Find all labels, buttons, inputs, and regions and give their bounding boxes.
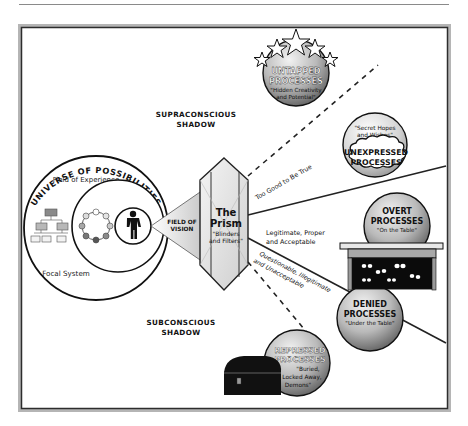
ray-label-legitimate-2: and Acceptable (266, 238, 316, 246)
supraconscious-shadow-label: SUPRACONSCIOUS SHADOW (156, 110, 237, 129)
prism: The Prism "Blinders and Filters" (200, 158, 248, 290)
subconscious-shadow-label: SUBCONSCIOUS SHADOW (147, 318, 216, 337)
supraconscious-line-2: SHADOW (176, 120, 215, 129)
overt-title-1: OVERT (382, 207, 412, 216)
denied-title-1: DENIED (353, 300, 387, 309)
supraconscious-line-1: SUPRACONSCIOUS (156, 110, 237, 119)
subconscious-line-1: SUBCONSCIOUS (147, 318, 216, 327)
untapped-subtitle-2: and Potential" (276, 94, 316, 100)
denied-subtitle: "Under the Table" (345, 320, 395, 326)
table-icon (340, 243, 443, 290)
ray-label-legitimate-1: Legitimate, Proper (266, 229, 325, 237)
untapped-title-1: UNTAPPED (271, 66, 320, 76)
denied-processes: DENIED PROCESSES "Under the Table" (337, 285, 403, 351)
prism-subtitle-1: "Blinders (212, 230, 239, 237)
repressed-processes: REPRESSED PROCESSES "Buried, Locked Away… (224, 330, 330, 396)
repressed-subtitle-1: "Buried, (296, 366, 320, 372)
prism-title-1: The (216, 207, 237, 218)
unexpressed-processes: "Secret Hopes and Wishes" UNEXPRESSED PR… (343, 113, 408, 177)
unexpressed-title-2: PROCESSES (350, 158, 402, 167)
universe-of-possibilities: UNIVERSE OF POSSIBILITIES Field of Exper… (24, 156, 168, 300)
unexpressed-title-1: UNEXPRESSED (344, 148, 408, 157)
focal-system-label: Focal System (42, 269, 90, 278)
subconscious-line-2: SHADOW (161, 328, 200, 337)
denied-title-2: PROCESSES (344, 310, 397, 319)
field-of-vision-label-2: VISION (171, 226, 194, 232)
unexpressed-quote-1: "Secret Hopes (354, 125, 395, 132)
repressed-subtitle-2: Locked Away, (282, 374, 322, 381)
overt-subtitle: "On the Table" (377, 227, 418, 233)
prism-title-2: Prism (210, 218, 242, 229)
repressed-title-1: REPRESSED (274, 346, 326, 355)
repressed-title-2: PROCESSES (274, 355, 326, 364)
ray-label-too-good: Too Good to Be True (253, 163, 313, 202)
treasure-chest-icon (224, 356, 281, 395)
prism-subtitle-2: and Filters" (209, 237, 243, 244)
field-of-vision-label-1: FIELD OF (167, 219, 197, 225)
untapped-subtitle-1: "Hidden Creativity (270, 87, 322, 94)
repressed-subtitle-3: Demons" (285, 382, 312, 388)
untapped-processes: UNTAPPED PROCESSES "Hidden Creativity an… (254, 29, 338, 106)
untapped-title-2: PROCESSES (269, 76, 323, 86)
shadow-diagram: UNIVERSE OF POSSIBILITIES Field of Exper… (0, 0, 468, 426)
overt-title-2: PROCESSES (371, 217, 424, 226)
